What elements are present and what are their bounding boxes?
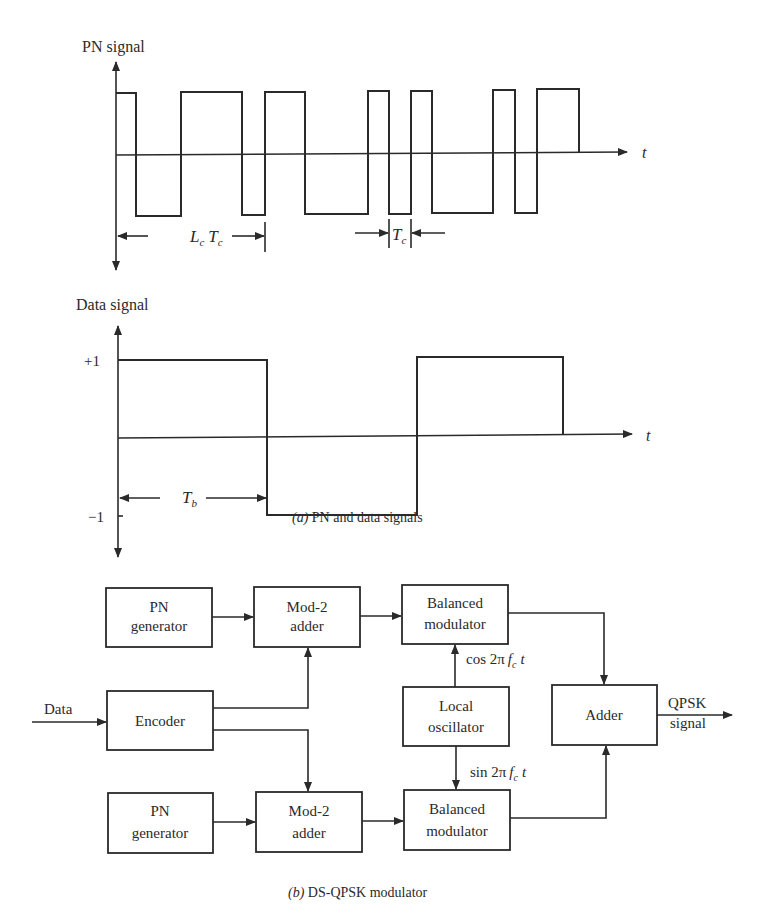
svg-text:Balanced: Balanced xyxy=(429,801,485,817)
mod2-adder-bottom: Mod-2 adder xyxy=(256,792,362,852)
data-input-label: Data xyxy=(44,701,73,717)
sin-carrier-label: sin 2πfct xyxy=(470,764,527,783)
pn-signal-label: PN signal xyxy=(82,38,145,56)
pn-generator-top: PN generator xyxy=(106,588,212,647)
svg-text:Mod-2: Mod-2 xyxy=(289,803,330,819)
mod2-adder-top: Mod-2 adder xyxy=(254,587,360,647)
data-x-axis xyxy=(118,434,632,438)
qpsk-label: QPSK xyxy=(668,695,707,711)
encoder-block: Encoder xyxy=(107,691,213,750)
data-t-label: t xyxy=(646,427,651,444)
cos-carrier-label: cos 2πfct xyxy=(466,651,525,670)
wire-encoder-to-mod2-top xyxy=(213,648,308,708)
balanced-modulator-bottom: Balanced modulator xyxy=(404,790,510,850)
wire-encoder-to-mod2-bottom xyxy=(213,730,308,791)
svg-text:modulator: modulator xyxy=(426,823,488,839)
balanced-modulator-top: Balanced modulator xyxy=(402,585,508,644)
adder-block: Adder xyxy=(552,685,657,745)
svg-text:Encoder: Encoder xyxy=(135,713,185,729)
lctc-label: LcTc xyxy=(189,227,223,248)
plus-one-label: +1 xyxy=(84,353,100,369)
pn-t-label: t xyxy=(642,144,647,161)
caption-b: (b) DS-QPSK modulator xyxy=(288,885,428,901)
data-signal-label: Data signal xyxy=(76,296,149,314)
svg-text:adder: adder xyxy=(290,618,323,634)
svg-text:PN: PN xyxy=(150,803,169,819)
svg-text:Mod-2: Mod-2 xyxy=(287,599,328,615)
minus-one-label: −1 xyxy=(88,509,104,525)
svg-text:modulator: modulator xyxy=(424,616,486,632)
svg-text:adder: adder xyxy=(292,825,325,841)
signal-label: signal xyxy=(670,715,706,731)
ds-qpsk-figure: PN signal t LcTc Tc Data signal t +1 −1 xyxy=(0,0,774,916)
caption-a: (a) PN and data signals xyxy=(292,510,423,526)
svg-text:Local: Local xyxy=(439,698,473,714)
tb-label: Tb xyxy=(182,488,197,509)
wire-bal-bottom-to-adder xyxy=(510,746,606,818)
pn-x-axis xyxy=(116,152,627,155)
local-oscillator-block: Local oscillator xyxy=(403,687,509,746)
ds-qpsk-block-diagram: PN generator Mod-2 adder Balanced modula… xyxy=(32,585,732,853)
svg-text:generator: generator xyxy=(132,825,189,841)
svg-text:generator: generator xyxy=(131,618,188,634)
svg-text:oscillator: oscillator xyxy=(428,719,484,735)
svg-text:Balanced: Balanced xyxy=(427,595,483,611)
svg-text:Adder: Adder xyxy=(585,707,623,723)
wire-bal-top-to-adder xyxy=(508,613,604,684)
tc-label: Tc xyxy=(392,225,406,246)
pn-signal-plot: PN signal t LcTc Tc xyxy=(82,38,647,270)
svg-text:PN: PN xyxy=(149,599,168,615)
pn-generator-bottom: PN generator xyxy=(108,793,213,853)
